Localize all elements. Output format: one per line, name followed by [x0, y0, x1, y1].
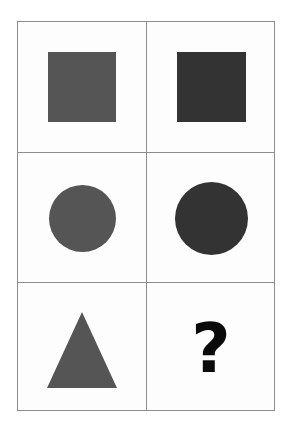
matrix-cell-row3-col1[interactable] — [18, 283, 146, 413]
question-mark-placeholder: ? — [191, 315, 230, 383]
matrix-cell-row1-col1[interactable] — [18, 22, 146, 152]
puzzle-root: ? — [0, 0, 291, 430]
matrix-cell-row2-col2[interactable] — [147, 153, 275, 283]
circle-shape-medium-gray — [49, 185, 116, 252]
circle-shape-dark-gray — [175, 182, 248, 255]
triangle-shape-medium-gray — [47, 312, 117, 388]
matrix-cell-row3-col2[interactable]: ? — [147, 283, 275, 413]
matrix-cell-row1-col2[interactable] — [147, 22, 275, 152]
square-shape-dark-gray — [177, 52, 246, 122]
matrix-cell-row2-col1[interactable] — [18, 153, 146, 283]
matrix-frame: ? — [17, 21, 275, 411]
square-shape-medium-gray — [48, 52, 116, 122]
